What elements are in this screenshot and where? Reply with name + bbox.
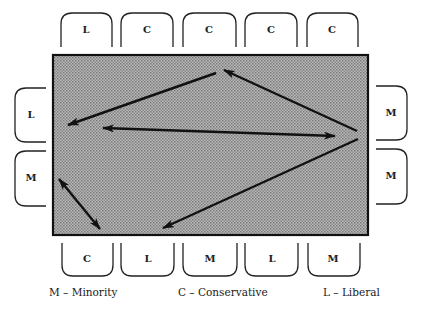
seat-label-top-4: C [261, 24, 281, 36]
seating-diagram: L C C C C L M M M C L M L M M – Minority… [0, 0, 422, 312]
seat-label-top-5: C [322, 24, 342, 36]
legend-liberal: L – Liberal [323, 286, 380, 298]
seat-label-bottom-4: L [262, 253, 282, 265]
table [53, 55, 368, 235]
seat-label-top-3: C [199, 24, 219, 36]
seat-label-bottom-5: M [323, 253, 343, 265]
diagram-canvas [0, 0, 422, 312]
right-seats [376, 86, 407, 204]
seat-label-right-2: M [381, 170, 401, 182]
seat-label-right-1: M [381, 107, 401, 119]
seat-label-bottom-3: M [200, 253, 220, 265]
seat-label-bottom-2: L [138, 253, 158, 265]
left-seats [15, 88, 46, 206]
seat-label-top-2: C [137, 24, 157, 36]
seat-label-top-1: L [76, 24, 96, 36]
seat-label-left-2: M [21, 172, 41, 184]
legend-conservative: C – Conservative [178, 286, 268, 298]
seat-label-bottom-1: C [77, 253, 97, 265]
seat-label-left-1: L [21, 109, 41, 121]
legend-minority: M – Minority [49, 286, 117, 298]
